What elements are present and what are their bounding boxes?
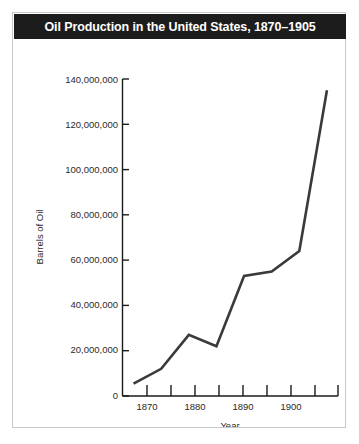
page-title: Oil Production in the United States, 187…: [44, 20, 315, 34]
x-tick-label: 1890: [232, 401, 253, 412]
chart-title-bar: Oil Production in the United States, 187…: [14, 14, 346, 39]
plot-area: 140,000,000 120,000,000 100,000,000 80,0…: [13, 39, 345, 427]
line-chart: 140,000,000 120,000,000 100,000,000 80,0…: [13, 39, 345, 427]
x-tick-label: 1900: [280, 401, 301, 412]
chart-figure: Oil Production in the United States, 187…: [12, 12, 346, 428]
y-tick-label: 20,000,000: [70, 344, 118, 355]
y-tick-label: 40,000,000: [70, 299, 118, 310]
x-axis-tick-labels: 1870 1880 1890 1900: [136, 401, 301, 412]
y-axis-tick-marks: [123, 79, 130, 396]
y-tick-label: 100,000,000: [65, 164, 118, 175]
x-tick-label: 1880: [184, 401, 205, 412]
data-series-line: [134, 90, 327, 383]
y-tick-label: 140,000,000: [65, 74, 118, 85]
y-tick-label: 0: [113, 390, 118, 401]
y-tick-label: 120,000,000: [65, 119, 118, 130]
y-tick-label: 60,000,000: [70, 254, 118, 265]
x-axis-tick-marks: [147, 385, 338, 396]
x-axis-title: Year: [220, 420, 239, 427]
x-tick-label: 1870: [136, 401, 157, 412]
y-axis-title: Barrels of Oil: [34, 210, 45, 265]
y-axis-tick-labels: 140,000,000 120,000,000 100,000,000 80,0…: [65, 74, 118, 401]
y-tick-label: 80,000,000: [70, 209, 118, 220]
